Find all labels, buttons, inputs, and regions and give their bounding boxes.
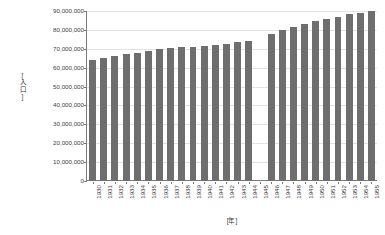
bar [335,17,342,181]
bar-slot [243,11,254,181]
x-axis-title: [年] [87,217,377,225]
bar [323,19,330,181]
bar-slot [288,11,299,181]
x-tick-slot: 1944 [243,182,254,212]
x-tick-slot: 1931 [98,182,109,212]
x-tick-mark [238,182,239,184]
y-tick-label: 60,000,000 [28,65,84,71]
bar [312,21,319,181]
bars-series [87,11,377,181]
bar-slot [132,11,143,181]
x-tick-slot: 1940 [199,182,210,212]
x-tick-slot: 1935 [143,182,154,212]
bar-slot [232,11,243,181]
bar [201,46,208,181]
bar-slot [98,11,109,181]
bar [223,44,230,181]
x-tick-mark [204,182,205,184]
x-axis-tick-labels: 1930193119321933193419351936193719381939… [87,182,377,212]
x-tick-slot: 1946 [266,182,277,212]
y-tick-label: 20,000,000 [28,140,84,146]
bar-slot [310,11,321,181]
x-tick-slot: 1942 [221,182,232,212]
x-tick-mark [215,182,216,184]
x-tick-mark [260,182,261,184]
bar [100,58,107,181]
y-tick-mark [84,49,87,50]
bar-slot [344,11,355,181]
bar-slot [355,11,366,181]
bar [301,24,308,181]
bar [123,54,130,181]
y-tick-label: 90,000,000 [28,8,84,14]
bar-slot [299,11,310,181]
x-tick-slot: 1950 [310,182,321,212]
y-tick-mark [84,143,87,144]
x-tick-mark [148,182,149,184]
x-tick-mark [282,182,283,184]
bar-slot [165,11,176,181]
x-tick-slot: 1938 [176,182,187,212]
x-tick-slot: 1936 [154,182,165,212]
x-tick-slot: 1953 [344,182,355,212]
bar [89,60,96,181]
y-axis-title: [人口] [12,72,26,100]
x-tick-mark [371,182,372,184]
y-tick-label: 10,000,000 [28,159,84,165]
bar-slot [109,11,120,181]
bar-slot [366,11,377,181]
x-tick-mark [249,182,250,184]
x-tick-slot: 1937 [165,182,176,212]
bar [279,30,286,181]
y-tick-mark [84,30,87,31]
x-tick-slot: 1941 [210,182,221,212]
bar-slot [199,11,210,181]
y-tick-mark [84,11,87,12]
bar [346,14,353,181]
bar-slot [143,11,154,181]
x-tick-slot: 1952 [332,182,343,212]
x-tick-mark [93,182,94,184]
y-tick-mark [84,124,87,125]
bar-slot [187,11,198,181]
bar-slot [266,11,277,181]
x-tick-label: 1955 [374,185,380,199]
x-tick-mark [316,182,317,184]
bar [167,48,174,181]
x-tick-mark [305,182,306,184]
y-tick-label: 0 [28,178,84,184]
bar [156,49,163,181]
x-tick-slot: 1955 [366,182,377,212]
bar-slot [254,11,265,181]
x-tick-mark [349,182,350,184]
population-bar-chart: [人口] 90,000,00080,000,00070,000,00060,00… [0,0,385,235]
bar [234,42,241,181]
x-tick-mark [360,182,361,184]
y-tick-label: 50,000,000 [28,84,84,90]
y-tick-label: 40,000,000 [28,102,84,108]
bar-slot [154,11,165,181]
plot-area [87,11,377,181]
x-tick-mark [126,182,127,184]
bar [368,11,375,181]
x-tick-mark [271,182,272,184]
x-tick-slot: 1932 [109,182,120,212]
y-tick-label: 80,000,000 [28,27,84,33]
x-tick-mark [182,182,183,184]
x-tick-slot: 1945 [254,182,265,212]
bar-slot [321,11,332,181]
y-tick-label: 30,000,000 [28,121,84,127]
bar-slot [277,11,288,181]
x-tick-slot: 1939 [187,182,198,212]
bar [268,34,275,181]
bar [145,51,152,181]
x-tick-slot: 1954 [355,182,366,212]
x-tick-mark [137,182,138,184]
x-tick-slot: 1947 [277,182,288,212]
bar-slot [87,11,98,181]
y-tick-mark [84,68,87,69]
y-axis-tick-labels: 90,000,00080,000,00070,000,00060,000,000… [28,11,84,181]
x-tick-mark [115,182,116,184]
x-tick-slot: 1949 [299,182,310,212]
y-tick-mark [84,87,87,88]
